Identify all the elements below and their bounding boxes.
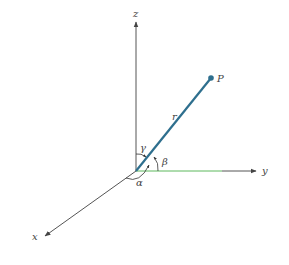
gamma-arc xyxy=(136,154,146,157)
gamma-label: γ xyxy=(140,142,146,153)
direction-angles-diagram: z y x P r γ β α xyxy=(0,0,289,265)
x-axis xyxy=(45,171,136,236)
point-p-dot xyxy=(208,75,214,81)
alpha-label: α xyxy=(136,177,143,188)
z-axis-label: z xyxy=(132,8,139,19)
vector-r xyxy=(136,78,211,171)
x-axis-label: x xyxy=(32,231,38,242)
beta-label: β xyxy=(161,156,168,167)
beta-arc xyxy=(154,157,158,171)
y-axis-label: y xyxy=(261,165,268,176)
point-p-label: P xyxy=(216,73,224,84)
